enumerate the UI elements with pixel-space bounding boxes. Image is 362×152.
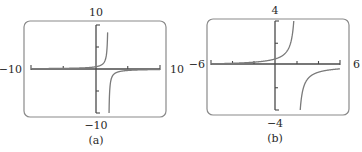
panel-b: −6 6 4 −4 (b) [189,4,360,145]
figure: −10 10 10 −10 (a) −6 6 4 −4 (b) [0,0,362,152]
panel-b-curve-left-branch [211,21,294,64]
panel-b-ymin-label: −4 [267,117,283,130]
panel-a-xmax-label: 10 [170,63,184,76]
panel-a: −10 10 10 −10 (a) [0,6,184,147]
panel-b-xmax-label: 6 [353,58,360,71]
panel-a-ymax-label: 10 [89,6,103,19]
panel-a-xmin-label: −10 [0,63,22,76]
panel-a-ymin-label: −10 [84,119,107,132]
figure-canvas: −10 10 10 −10 (a) −6 6 4 −4 (b) [0,0,362,152]
panel-a-caption: (a) [88,134,103,147]
panel-a-curve-right-branch [109,70,160,113]
panel-b-axes [211,21,340,110]
panel-b-caption: (b) [267,132,283,145]
panel-b-curve-right-branch [300,69,340,110]
panel-b-ymax-label: 4 [272,4,279,17]
panel-b-xmin-label: −6 [189,58,205,71]
panel-b-frame [207,19,349,115]
